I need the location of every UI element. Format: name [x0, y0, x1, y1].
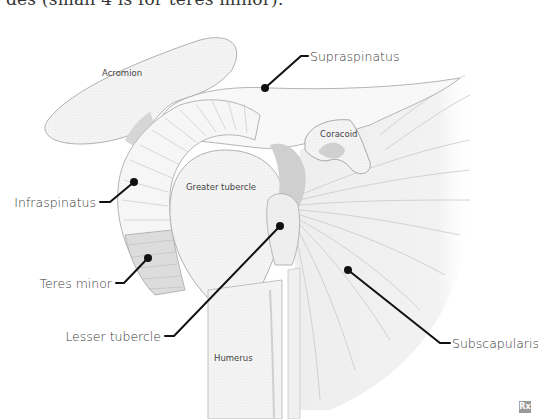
lesser-tubercle-dot: [276, 222, 284, 230]
subscapularis-label: Subscapularis: [452, 336, 538, 351]
acromion-label: Acromion: [102, 68, 142, 78]
infraspinatus-label: Infraspinatus: [14, 195, 96, 210]
greater-tubercle-label: Greater tubercle: [186, 182, 256, 192]
rx-badge-icon: Rx: [519, 401, 531, 413]
supraspinatus-dot: [261, 84, 269, 92]
shoulder-anatomy-illustration: Acromion Coracoid Greater tubercle Humer…: [0, 0, 538, 419]
lesser-tubercle-label: Lesser tubercle: [65, 329, 161, 344]
humerus-label: Humerus: [214, 353, 253, 363]
teres-minor-dot: [144, 254, 152, 262]
subscapularis-dot: [344, 266, 352, 274]
teres-minor-label: Teres minor: [39, 276, 112, 291]
coracoid-label: Coracoid: [320, 129, 357, 139]
supraspinatus-leader: [265, 56, 308, 88]
supraspinatus-label: Supraspinatus: [310, 49, 399, 64]
infraspinatus-dot: [130, 178, 138, 186]
